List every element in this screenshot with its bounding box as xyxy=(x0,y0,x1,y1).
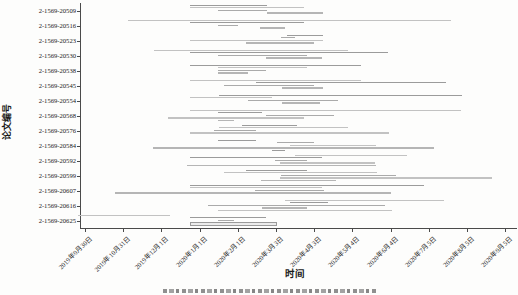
review-period-bar xyxy=(256,82,446,83)
review-period-bar xyxy=(128,20,451,21)
x-tick-label: 2019年12月1日 xyxy=(132,233,170,271)
review-period-bar xyxy=(260,27,285,28)
paper-row xyxy=(80,108,514,123)
paper-row xyxy=(80,213,514,228)
y-tick-label: 2-1569-20523 xyxy=(0,37,76,45)
x-tick-mark xyxy=(505,229,506,232)
y-tick-label: 2-1569-20592 xyxy=(0,157,76,165)
review-period-bar xyxy=(218,25,238,26)
y-tick-label: 2-1569-20607 xyxy=(0,187,76,195)
y-tick-label: 2-1569-20599 xyxy=(0,172,76,180)
y-tick-label: 2-1569-20538 xyxy=(0,67,76,75)
y-tick-mark xyxy=(77,86,80,87)
review-period-bar xyxy=(214,130,256,131)
paper-row xyxy=(80,198,514,213)
review-period-bar xyxy=(282,102,320,103)
review-period-bar xyxy=(224,85,314,86)
y-tick-mark xyxy=(77,206,80,207)
x-tick-mark xyxy=(467,229,468,232)
paper-row xyxy=(80,183,514,198)
review-period-bar xyxy=(190,97,273,98)
review-period-bar xyxy=(262,207,306,208)
y-tick-mark xyxy=(77,161,80,162)
review-period-bar xyxy=(242,125,297,126)
review-period-bar xyxy=(190,132,390,133)
x-tick-label: 2020年5月4日 xyxy=(326,233,362,269)
review-period-bar xyxy=(224,172,377,173)
review-period-bar xyxy=(267,12,322,13)
review-period-bar xyxy=(218,67,307,68)
review-period-bar xyxy=(290,202,328,203)
review-period-bar xyxy=(280,177,492,178)
review-period-bar xyxy=(190,185,424,186)
review-period-bar xyxy=(190,157,322,158)
review-period-bar xyxy=(219,127,347,128)
y-tick-mark xyxy=(77,26,80,27)
review-period-bar xyxy=(248,100,338,101)
x-tick-label: 2020年6月4日 xyxy=(364,233,400,269)
review-period-bar xyxy=(190,110,461,111)
y-tick-label: 2-1569-20545 xyxy=(0,82,76,90)
review-period-bar xyxy=(285,200,444,201)
paper-row xyxy=(80,123,514,138)
x-tick-mark xyxy=(123,229,124,232)
y-tick-mark xyxy=(77,191,80,192)
review-period-bar xyxy=(190,65,361,66)
review-period-bar xyxy=(272,150,284,151)
y-tick-mark xyxy=(77,71,80,72)
review-period-bar xyxy=(275,160,307,161)
x-tick-mark xyxy=(276,229,277,232)
review-period-bar xyxy=(290,145,376,146)
x-tick-mark xyxy=(161,229,162,232)
y-tick-mark xyxy=(77,101,80,102)
y-tick-mark xyxy=(77,116,80,117)
y-tick-label: 2-1569-20509 xyxy=(0,7,76,15)
review-period-bar xyxy=(218,55,307,56)
review-period-bar xyxy=(78,215,170,216)
review-period-bar xyxy=(261,180,336,181)
paper-row xyxy=(80,63,514,78)
y-tick-mark xyxy=(77,221,80,222)
review-period-bar xyxy=(154,50,348,51)
y-tick-mark xyxy=(77,11,80,12)
x-tick-mark xyxy=(429,229,430,232)
paper-row xyxy=(80,138,514,153)
review-period-bar xyxy=(218,220,234,221)
x-tick-label: 2020年7月5日 xyxy=(402,233,438,269)
review-period-bar xyxy=(218,70,266,71)
review-period-bar xyxy=(266,57,321,58)
y-tick-label: 2-1569-20516 xyxy=(0,22,76,30)
review-period-bar xyxy=(277,142,314,143)
review-period-bar xyxy=(115,192,391,193)
paper-row xyxy=(80,153,514,168)
x-tick-label: 2020年3月3日 xyxy=(249,233,285,269)
review-period-bar xyxy=(281,37,295,38)
paper-row xyxy=(80,168,514,183)
review-period-bar xyxy=(246,42,314,43)
y-tick-label: 2-1569-20625 xyxy=(0,217,76,225)
review-period-bar xyxy=(208,205,384,206)
review-period-bar xyxy=(153,147,434,148)
y-tick-label: 2-1569-20616 xyxy=(0,202,76,210)
x-tick-mark xyxy=(238,229,239,232)
paper-row xyxy=(80,33,514,48)
review-period-bar xyxy=(190,5,268,6)
y-tick-label: 2-1569-20568 xyxy=(0,112,76,120)
y-tick-mark xyxy=(77,41,80,42)
x-tick-mark xyxy=(85,229,86,232)
review-period-bar xyxy=(190,40,323,41)
review-period-bar xyxy=(190,52,389,53)
gantt-figure: 论文编号 时间 2-1569-205092-1569-205162-1569-2… xyxy=(0,0,518,295)
paper-row xyxy=(80,78,514,93)
x-axis-line xyxy=(80,228,517,229)
review-period-bar xyxy=(187,165,376,166)
review-period-bar xyxy=(218,10,267,11)
paper-row xyxy=(80,18,514,33)
figure-caption-cropped xyxy=(163,289,378,293)
x-tick-mark xyxy=(200,229,201,232)
review-period-bar xyxy=(168,117,305,118)
paper-row xyxy=(80,48,514,63)
review-period-bar xyxy=(190,217,266,218)
review-period-bar xyxy=(190,22,305,23)
review-period-bar xyxy=(281,175,396,176)
